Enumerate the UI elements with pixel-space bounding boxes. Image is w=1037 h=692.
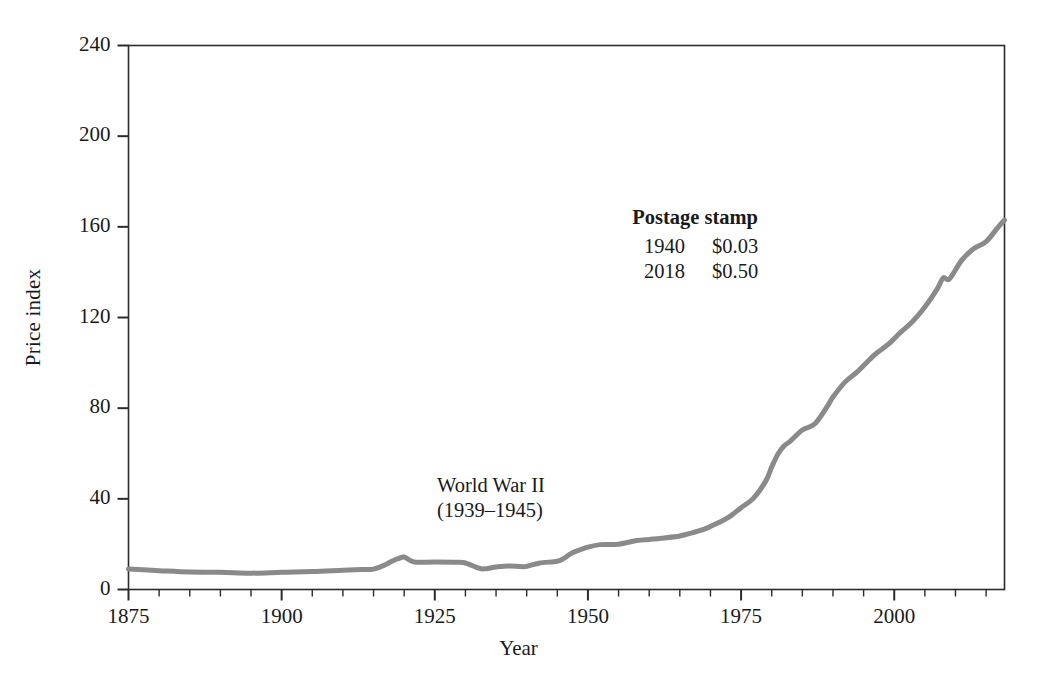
chart-figure: 04080120160200240 1875190019251950197520…	[0, 0, 1037, 692]
axes-frame	[129, 46, 1005, 590]
plot-canvas	[0, 0, 1037, 692]
y-axis-ticks	[118, 46, 129, 590]
data-series	[129, 220, 1005, 573]
x-axis-ticks	[129, 590, 987, 601]
